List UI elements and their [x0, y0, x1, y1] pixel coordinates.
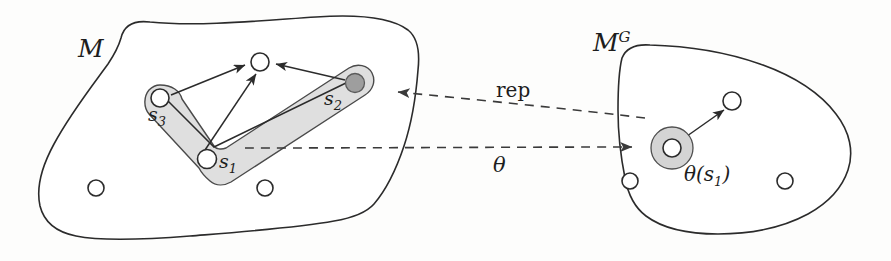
- state-s3-label-subscript: 3: [158, 114, 166, 129]
- theta-of-s1-label: θ(s1): [684, 164, 730, 188]
- figure-canvas: [0, 0, 891, 261]
- theta-mapping-label-text: θ: [493, 153, 506, 177]
- source-manifold-label-text: M: [78, 34, 104, 63]
- node-s2[interactable]: [346, 74, 365, 93]
- node-free-goal-b[interactable]: [777, 173, 793, 189]
- theta-of-s1-suffix: ): [722, 162, 730, 186]
- manifold-mapping-figure: M MG s3 s1 s2 rep θ θ(s1): [0, 0, 891, 261]
- goal-manifold-label-superscript: G: [619, 28, 631, 46]
- node-theta-s1[interactable]: [663, 139, 681, 157]
- state-s3-label: s3: [148, 105, 166, 128]
- node-free-source-a[interactable]: [88, 180, 104, 196]
- goal-manifold-label-base: M: [593, 28, 619, 57]
- state-s1-label: s1: [219, 152, 237, 175]
- node-free-source-b[interactable]: [257, 180, 273, 196]
- node-center-state[interactable]: [251, 53, 269, 71]
- state-s2-label-subscript: 2: [334, 98, 342, 113]
- state-s1-label-base: s: [219, 150, 229, 172]
- state-s1-label-subscript: 1: [229, 161, 237, 176]
- state-s2-label-base: s: [324, 87, 334, 109]
- node-s1[interactable]: [198, 150, 217, 169]
- source-manifold-label: M: [78, 36, 104, 61]
- state-s2-label: s2: [324, 89, 342, 112]
- node-free-goal-a[interactable]: [622, 173, 638, 189]
- theta-mapping-label: θ: [493, 155, 506, 176]
- node-goal-target[interactable]: [723, 92, 741, 110]
- theta-of-s1-prefix: θ(s: [684, 162, 714, 186]
- state-s3-label-base: s: [148, 103, 158, 125]
- goal-manifold-label: MG: [593, 30, 631, 55]
- rep-mapping-label-text: rep: [496, 78, 530, 102]
- rep-mapping-label: rep: [496, 80, 530, 100]
